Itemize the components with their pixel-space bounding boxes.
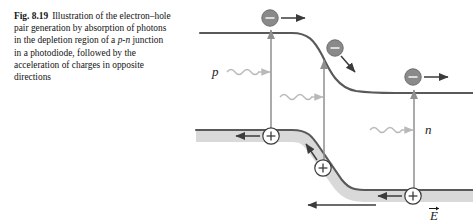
electric-field-text: E [429,208,438,223]
caption-line-0: Illustration of the [52,11,117,21]
electron-2-drift-arrow [341,56,355,72]
electron-1 [262,10,278,26]
photon-wave-1 [227,70,270,75]
figure-number: Fig. 8.19 [14,11,48,21]
electron-3 [405,69,421,85]
figure-caption: Fig. 8.19Illustration of the electron–ho… [14,10,172,83]
figure-page: Fig. 8.19Illustration of the electron–ho… [0,0,473,224]
label-electric-field: E [429,207,439,223]
hole-1 [263,128,279,144]
caption-line-6: of charges in opposite [62,60,144,70]
photon-wave-2 [280,95,323,100]
label-n-region: n [425,122,432,137]
label-p-region: p [211,64,219,79]
hole-3 [405,188,421,204]
caption-line-7: directions [14,72,51,82]
band-diagram: p n E [180,0,473,224]
valence-band-fill [196,130,473,202]
caption-line-3: the depletion region of a p-n [24,35,130,45]
photon-wave-3 [370,128,413,133]
electron-2 [327,40,343,56]
hole-2 [315,160,331,176]
